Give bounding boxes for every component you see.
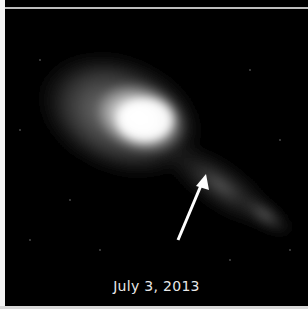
galaxy-photo [5,9,308,306]
date-caption: July 3, 2013 [5,278,308,294]
image-frame: July 3, 2013 [0,0,308,309]
